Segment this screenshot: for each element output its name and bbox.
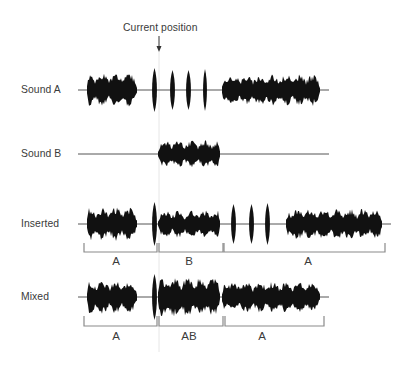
dense-waveform xyxy=(87,207,137,241)
track-label-inserted: Inserted xyxy=(21,217,59,229)
pulse-burst xyxy=(152,274,157,320)
segment-bracket xyxy=(84,316,157,326)
inserted-segment-b-label: B xyxy=(185,255,193,267)
mixed-segment-a1-label: A xyxy=(112,330,120,342)
segment-bracket xyxy=(159,316,223,326)
dense-waveform xyxy=(158,140,220,167)
segment-bracket xyxy=(159,243,223,252)
pulse-burst xyxy=(152,202,157,246)
inserted-segment-a1-label: A xyxy=(112,255,120,267)
mixed-segment-a2-label: A xyxy=(258,330,266,342)
pulse-burst xyxy=(170,70,175,110)
pulse-burst xyxy=(186,70,191,110)
dense-waveform xyxy=(87,282,137,314)
inserted-segment-a2-label: A xyxy=(304,255,312,267)
segment-bracket xyxy=(225,316,324,326)
pulse-burst xyxy=(265,203,270,245)
waveform-canvas xyxy=(0,0,413,367)
segment-bracket xyxy=(84,243,157,252)
dense-waveform xyxy=(222,282,320,313)
segment-bracket xyxy=(224,243,385,252)
track-label-sound-b: Sound B xyxy=(21,147,61,159)
dense-waveform xyxy=(222,74,320,106)
mixed-segment-ab-label: AB xyxy=(181,330,196,342)
dense-waveform xyxy=(286,209,382,239)
arrow-down-icon xyxy=(157,46,162,52)
current-position-label: Current position xyxy=(123,21,198,33)
pulse-burst xyxy=(231,204,236,244)
pulse-burst xyxy=(249,204,254,244)
pulse-burst xyxy=(152,68,157,112)
dense-waveform xyxy=(158,210,220,237)
track-label-sound-a: Sound A xyxy=(21,83,61,95)
track-label-mixed: Mixed xyxy=(21,290,49,302)
dense-waveform xyxy=(158,278,220,316)
dense-waveform xyxy=(87,74,137,107)
pulse-burst xyxy=(203,69,207,111)
